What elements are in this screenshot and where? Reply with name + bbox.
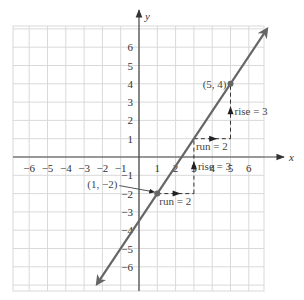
y-tick-label: −3 bbox=[121, 206, 133, 218]
point-label: (1, −2) bbox=[87, 178, 117, 191]
y-tick-label: 4 bbox=[128, 78, 134, 90]
y-tick-label: −2 bbox=[121, 188, 133, 200]
rise-label: rise = 3 bbox=[235, 105, 269, 117]
rise-label: rise = 3 bbox=[198, 160, 232, 172]
y-tick-label: 5 bbox=[128, 60, 134, 72]
x-tick-label: −2 bbox=[97, 162, 109, 174]
y-tick-label: 3 bbox=[128, 96, 134, 108]
y-tick-label: 2 bbox=[128, 114, 134, 126]
x-tick-label: −3 bbox=[78, 162, 90, 174]
x-tick-label: 6 bbox=[246, 162, 252, 174]
x-tick-label: −5 bbox=[42, 162, 54, 174]
y-axis-label: y bbox=[144, 10, 150, 22]
y-tick-label: 1 bbox=[128, 133, 134, 145]
y-tick-label: 6 bbox=[128, 41, 134, 53]
x-tick-label: 1 bbox=[155, 162, 161, 174]
data-point bbox=[228, 81, 234, 87]
y-tick-label: −6 bbox=[121, 261, 133, 273]
run-label: run = 2 bbox=[159, 195, 191, 207]
rise-arrow-icon bbox=[228, 106, 234, 114]
x-tick-label: −6 bbox=[23, 162, 35, 174]
point-label: (5, 4) bbox=[203, 78, 227, 91]
x-tick-label: −4 bbox=[60, 162, 72, 174]
chart: xy −6−5−4−3−2−1123456654321−1−2−3−4−5−6 … bbox=[0, 0, 304, 300]
x-axis-label: x bbox=[288, 151, 294, 163]
data-point bbox=[154, 191, 160, 197]
run-label: run = 2 bbox=[196, 140, 228, 152]
y-tick-label: −1 bbox=[121, 169, 133, 181]
